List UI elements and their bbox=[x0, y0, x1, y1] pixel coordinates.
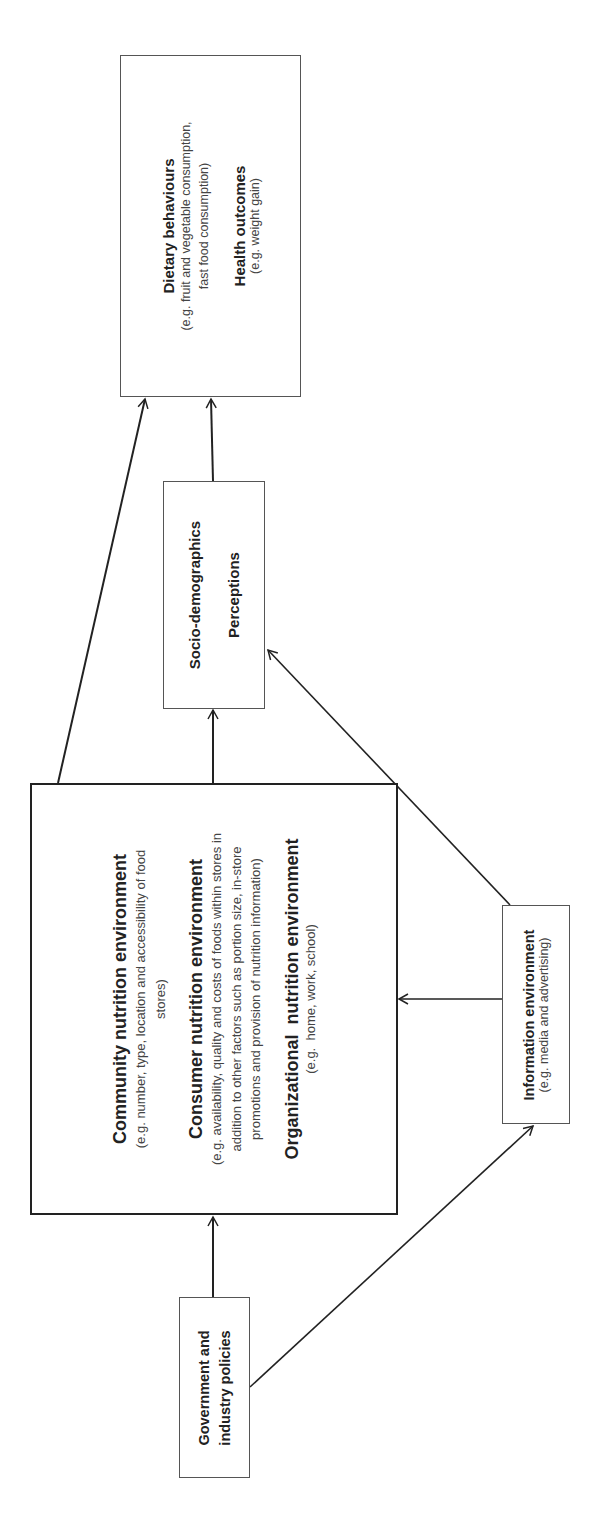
community-detail: (e.g. number, type, location and accessi… bbox=[131, 834, 170, 1164]
mediators-box: Socio-demographics Perceptions bbox=[163, 481, 265, 709]
consumer-title: Consumer nutrition environment bbox=[186, 789, 207, 1209]
dietary-title: Dietary behaviours bbox=[159, 61, 176, 391]
edge-main-to-outcomes bbox=[58, 399, 145, 783]
perceptions-label: Perceptions bbox=[225, 485, 242, 705]
organizational-title: Organizational nutrition environment bbox=[282, 789, 303, 1209]
nutrition-environment-box: Community nutrition environment (e.g. nu… bbox=[30, 783, 398, 1215]
consumer-detail: (e.g. availability, quality and costs of… bbox=[207, 829, 266, 1169]
socio-demographics-label: Socio-demographics bbox=[186, 485, 203, 705]
organizational-detail: (e.g. home, work, school) bbox=[303, 789, 318, 1209]
government-policies-box: Government and industry policies bbox=[179, 1297, 250, 1478]
health-detail: (e.g. weight gain) bbox=[248, 61, 262, 391]
outcomes-box: Dietary behaviours (e.g. fruit and veget… bbox=[120, 55, 301, 397]
health-title: Health outcomes bbox=[231, 61, 248, 391]
information-detail: (e.g. media and advertising) bbox=[537, 910, 551, 1120]
information-environment-box: Information environment (e.g. media and … bbox=[502, 905, 570, 1124]
information-title: Information environment bbox=[521, 910, 537, 1120]
dietary-detail: (e.g. fruit and vegetable consumption, f… bbox=[176, 111, 212, 341]
community-title: Community nutrition environment bbox=[110, 789, 131, 1209]
government-title: Government and industry policies bbox=[193, 1318, 235, 1458]
edge-mediators-to-outcomes bbox=[211, 399, 213, 481]
